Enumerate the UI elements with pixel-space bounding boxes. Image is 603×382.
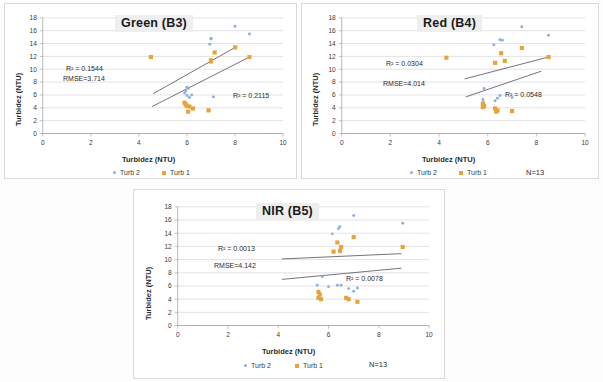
svg-text:14: 14 <box>164 230 172 237</box>
x-axis-label-green: Turbidez (NTU) <box>122 155 175 164</box>
svg-text:4: 4 <box>437 139 441 146</box>
svg-text:0: 0 <box>332 130 336 137</box>
r2-lower-red: R² = 0.0548 <box>505 91 542 98</box>
chart-panel-green: 0246810121416180246810 Green (B3) Turbid… <box>4 3 297 179</box>
svg-text:0: 0 <box>340 139 344 146</box>
r2-lower-nir-value: ² = 0.0078 <box>351 275 383 282</box>
svg-text:8: 8 <box>377 331 381 338</box>
svg-text:14: 14 <box>30 40 38 47</box>
svg-text:4: 4 <box>332 104 336 111</box>
legend-green: Turb 2 Turb 1 <box>113 169 190 176</box>
chart-panel-red: 0246810121416180246810 Red (B4) Turbidez… <box>301 3 599 179</box>
svg-text:4: 4 <box>137 139 141 146</box>
sample-size-label-red: N=13 <box>526 168 544 177</box>
r2-upper-red: R² = 0.0304 <box>386 60 423 67</box>
y-axis-label-red: Turbidez (NTU) <box>311 73 320 126</box>
r2-lower-green-value: ² = 0.2115 <box>238 92 269 99</box>
svg-text:2: 2 <box>89 139 93 146</box>
svg-text:4: 4 <box>168 296 172 303</box>
svg-text:2: 2 <box>389 139 393 146</box>
r2-upper-nir: R² = 0.0013 <box>218 245 255 252</box>
svg-text:6: 6 <box>332 91 336 98</box>
legend-turb2-label: Turb 2 <box>417 169 437 176</box>
r2-upper-green: R² = 0.1544 <box>66 65 103 72</box>
svg-text:0: 0 <box>168 322 172 329</box>
svg-text:6: 6 <box>168 282 172 289</box>
legend-turb1-label: Turb 1 <box>170 169 190 176</box>
svg-text:16: 16 <box>30 27 38 34</box>
svg-text:2: 2 <box>226 331 230 338</box>
svg-text:12: 12 <box>328 53 336 60</box>
svg-text:8: 8 <box>535 139 539 146</box>
svg-text:6: 6 <box>486 139 490 146</box>
figure-page: 0246810121416180246810 Green (B3) Turbid… <box>0 0 603 382</box>
svg-text:10: 10 <box>328 66 336 73</box>
svg-text:6: 6 <box>327 331 331 338</box>
svg-text:8: 8 <box>332 78 336 85</box>
svg-text:18: 18 <box>30 14 38 21</box>
svg-text:10: 10 <box>164 256 172 263</box>
svg-text:10: 10 <box>279 139 287 146</box>
rmse-red: RMSE=4.014 <box>383 80 425 87</box>
svg-text:16: 16 <box>164 216 172 223</box>
legend-turb1-square-icon <box>162 171 166 175</box>
svg-text:8: 8 <box>233 139 237 146</box>
svg-text:0: 0 <box>33 130 37 137</box>
legend-turb1-square-icon <box>295 364 299 368</box>
svg-text:10: 10 <box>30 66 38 73</box>
legend-turb1-label: Turb 1 <box>467 169 487 176</box>
svg-text:4: 4 <box>33 104 37 111</box>
svg-text:14: 14 <box>328 40 336 47</box>
legend-turb2-label: Turb 2 <box>120 169 140 176</box>
svg-text:6: 6 <box>185 139 189 146</box>
svg-text:0: 0 <box>41 139 45 146</box>
legend-turb2-dot-icon <box>410 171 413 174</box>
svg-text:2: 2 <box>33 117 37 124</box>
svg-text:8: 8 <box>33 78 37 85</box>
svg-text:6: 6 <box>33 91 37 98</box>
chart-title-red: Red (B4) <box>417 15 482 32</box>
svg-text:18: 18 <box>164 203 172 210</box>
chart-title-nir: NIR (B5) <box>256 203 319 220</box>
svg-text:18: 18 <box>328 14 336 21</box>
svg-text:10: 10 <box>581 139 589 146</box>
x-axis-label-nir: Turbidez (NTU) <box>262 347 315 356</box>
x-axis-label-red: Turbidez (NTU) <box>422 155 475 164</box>
svg-text:4: 4 <box>276 331 280 338</box>
legend-nir: Turb 2 Turb 1 <box>244 362 323 369</box>
svg-text:2: 2 <box>168 309 172 316</box>
svg-text:0: 0 <box>176 331 180 338</box>
legend-red: Turb 2 Turb 1 <box>410 169 487 176</box>
svg-text:12: 12 <box>30 53 38 60</box>
rmse-nir: RMSE=4.142 <box>214 262 256 269</box>
svg-text:12: 12 <box>164 243 172 250</box>
svg-text:10: 10 <box>425 331 433 338</box>
r2-lower-red-value: ² = 0.0548 <box>510 91 542 98</box>
chart-panel-nir: 0246810121416180246810 NIR (B5) Turbidez… <box>133 189 445 379</box>
r2-upper-nir-value: ² = 0.0013 <box>223 245 255 252</box>
r2-lower-nir: R² = 0.0078 <box>346 275 383 282</box>
legend-turb1-square-icon <box>459 171 463 175</box>
chart-title-green: Green (B3) <box>115 15 193 32</box>
y-axis-label-green: Turbidez (NTU) <box>14 73 23 126</box>
r2-upper-red-value: ² = 0.0304 <box>391 60 423 67</box>
r2-lower-green: R² = 0.2115 <box>233 92 269 99</box>
legend-turb2-dot-icon <box>244 364 247 367</box>
legend-turb1-label: Turb 1 <box>303 362 323 369</box>
rmse-green: RMSE=3.714 <box>63 75 105 82</box>
legend-turb2-dot-icon <box>113 171 116 174</box>
svg-text:2: 2 <box>332 117 336 124</box>
sample-size-label-nir: N=13 <box>369 360 387 369</box>
svg-text:8: 8 <box>168 269 172 276</box>
y-axis-label-nir: Turbidez (NTU) <box>144 267 153 320</box>
svg-text:16: 16 <box>328 27 336 34</box>
legend-turb2-label: Turb 2 <box>251 362 271 369</box>
r2-upper-green-value: ² = 0.1544 <box>71 65 103 72</box>
